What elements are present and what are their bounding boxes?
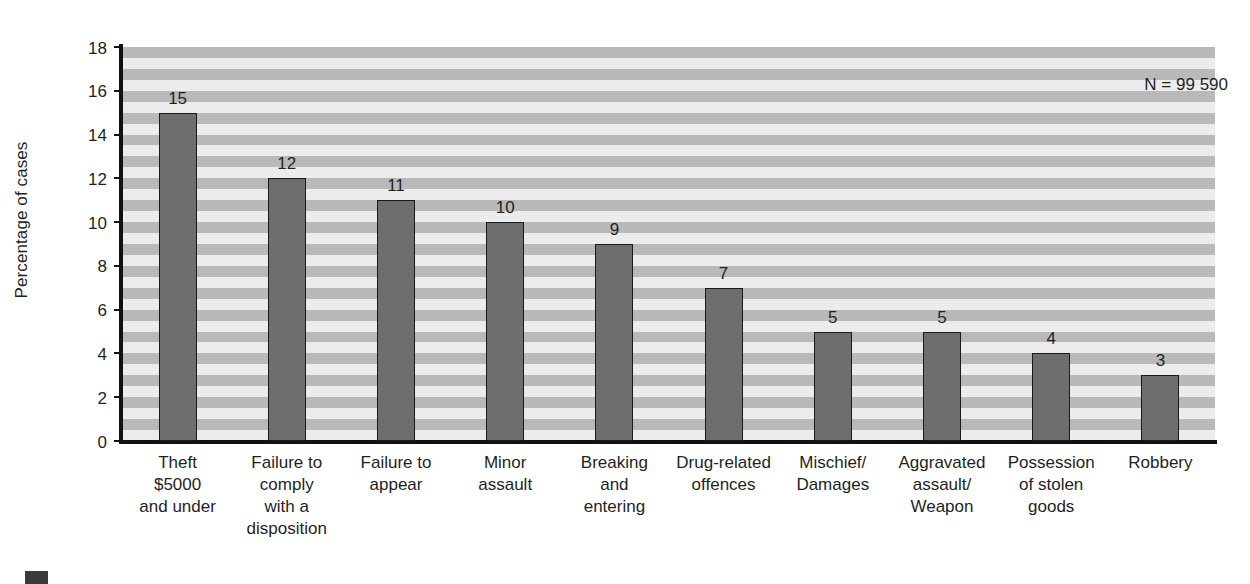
bar-slot: 9 bbox=[560, 47, 669, 441]
y-axis-tick-mark bbox=[114, 396, 123, 398]
bar-slot: 4 bbox=[997, 47, 1106, 441]
y-axis-title-text: Percentage of cases bbox=[12, 142, 32, 299]
x-axis-label-line: goods bbox=[985, 496, 1118, 518]
bar-slot: 10 bbox=[451, 47, 560, 441]
x-axis-labels: Theft$5000and underFailure tocomplywith … bbox=[123, 452, 1215, 562]
y-axis-tick-label: 14 bbox=[88, 127, 114, 144]
y-axis-tick-label: 16 bbox=[88, 83, 114, 100]
bar[interactable] bbox=[705, 288, 743, 441]
bar[interactable] bbox=[595, 244, 633, 441]
bar-value-label: 5 bbox=[937, 309, 946, 326]
x-axis-label-line: entering bbox=[548, 496, 681, 518]
bar[interactable] bbox=[377, 200, 415, 441]
y-axis-tick-label: 8 bbox=[98, 258, 114, 275]
y-axis-tick-mark bbox=[114, 265, 123, 267]
y-axis-tick-mark bbox=[114, 90, 123, 92]
y-axis-tick-label: 12 bbox=[88, 170, 114, 187]
y-axis-tick-label: 18 bbox=[88, 39, 114, 56]
bar-value-label: 15 bbox=[168, 90, 187, 107]
y-axis-tick-label: 2 bbox=[98, 389, 114, 406]
bar[interactable] bbox=[1032, 353, 1070, 441]
bar-slot: 7 bbox=[669, 47, 778, 441]
bar[interactable] bbox=[923, 332, 961, 441]
x-axis-label-line: Robbery bbox=[1094, 452, 1227, 474]
bar-chart-figure: Percentage of cases 024681012141618 1512… bbox=[0, 0, 1250, 584]
x-axis-label: Robbery bbox=[1094, 452, 1227, 474]
sample-size-annotation: N = 99 590 bbox=[1144, 75, 1228, 95]
bar-value-label: 7 bbox=[719, 265, 728, 282]
y-axis-tick-label: 6 bbox=[98, 302, 114, 319]
bar-slot: 5 bbox=[778, 47, 887, 441]
y-axis-tick-mark bbox=[114, 309, 123, 311]
bar[interactable] bbox=[159, 113, 197, 441]
bar[interactable] bbox=[814, 332, 852, 441]
bar[interactable] bbox=[268, 178, 306, 441]
y-axis-title: Percentage of cases bbox=[0, 0, 44, 440]
y-axis-tick-mark bbox=[114, 352, 123, 354]
y-axis-tick-label: 4 bbox=[98, 345, 114, 362]
y-axis-tick-mark bbox=[114, 177, 123, 179]
bar-value-label: 4 bbox=[1046, 330, 1055, 347]
y-axis-tick-label: 0 bbox=[98, 433, 114, 450]
x-axis-label-line: with a bbox=[220, 496, 353, 518]
x-axis-label-line: of stolen bbox=[985, 474, 1118, 496]
bar[interactable] bbox=[486, 222, 524, 441]
bars-layer: 15121110975543 bbox=[123, 47, 1215, 441]
y-axis-tick-mark bbox=[114, 134, 123, 136]
y-axis-tick-label: 10 bbox=[88, 214, 114, 231]
y-axis-tick-mark bbox=[114, 46, 123, 48]
bar-slot: 11 bbox=[341, 47, 450, 441]
y-axis-tick-mark bbox=[114, 221, 123, 223]
bar-slot: 15 bbox=[123, 47, 232, 441]
bar-slot: 5 bbox=[887, 47, 996, 441]
x-axis-label-line: disposition bbox=[220, 518, 353, 540]
bar-value-label: 10 bbox=[496, 199, 515, 216]
bar-value-label: 9 bbox=[610, 221, 619, 238]
bar-value-label: 3 bbox=[1156, 352, 1165, 369]
y-axis-ticks: 024681012141618 bbox=[47, 47, 123, 441]
bar-slot: 12 bbox=[232, 47, 341, 441]
bar-value-label: 5 bbox=[828, 309, 837, 326]
bar[interactable] bbox=[1141, 375, 1179, 441]
footnote-marker-icon bbox=[25, 571, 48, 584]
y-axis-tick-mark bbox=[114, 440, 123, 442]
bar-value-label: 11 bbox=[387, 177, 405, 194]
bar-slot: 3 bbox=[1106, 47, 1215, 441]
bar-value-label: 12 bbox=[277, 155, 296, 172]
